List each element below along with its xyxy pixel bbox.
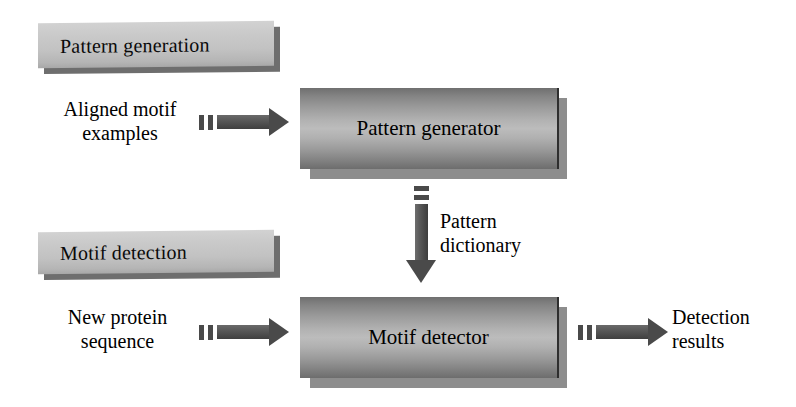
plaque-face: Motif detection: [38, 230, 274, 274]
process-box-face: Pattern generator: [300, 88, 559, 169]
arrow-tick-icon: [199, 115, 204, 130]
section-label-pattern-generation: Pattern generation: [38, 34, 210, 56]
plaque-face: Pattern generation: [38, 21, 274, 68]
arrow-tick-icon: [208, 325, 213, 340]
arrow-shaft: [217, 325, 269, 339]
section-label-motif-detection: Motif detection: [38, 242, 187, 263]
arrow-tick-icon: [587, 325, 592, 340]
arrow-head-icon: [648, 318, 668, 346]
caption-detection-results: Detection results: [672, 305, 796, 354]
arrow-head-icon: [269, 318, 289, 346]
arrow-motif-detector-to-results: [578, 318, 668, 346]
arrow-body: [217, 318, 289, 346]
arrow-tick-icon: [578, 325, 583, 340]
process-label-motif-detector: Motif detector: [368, 327, 489, 348]
arrow-shaft: [217, 115, 269, 129]
arrow-input-to-pattern-generator: [199, 108, 289, 136]
arrow-tick-icon: [199, 325, 204, 340]
caption-new-protein-sequence: New protein sequence: [40, 305, 195, 354]
caption-pattern-dictionary: Pattern dictionary: [440, 209, 610, 258]
arrow-body: [217, 108, 289, 136]
caption-aligned-motif-examples: Aligned motif examples: [45, 97, 195, 146]
arrow-tick-icon: [208, 115, 213, 130]
section-plaque-motif-detection: Motif detection: [38, 230, 274, 274]
process-box-motif-detector: Motif detector: [300, 297, 557, 378]
arrow-pattern-generator-to-motif-detector: [406, 186, 436, 283]
process-box-face: Motif detector: [300, 297, 559, 378]
arrow-body: [596, 318, 668, 346]
diagram-canvas: Pattern generation Aligned motif example…: [0, 0, 796, 407]
arrow-head-icon: [269, 108, 289, 136]
arrow-head-icon: [406, 260, 436, 283]
arrow-input-to-motif-detector: [199, 318, 289, 346]
process-label-pattern-generator: Pattern generator: [356, 118, 500, 139]
section-plaque-pattern-generation: Pattern generation: [38, 21, 274, 68]
arrow-tick-icon: [414, 186, 429, 191]
arrow-tick-icon: [414, 195, 429, 200]
arrow-shaft: [415, 204, 428, 260]
process-box-pattern-generator: Pattern generator: [300, 88, 557, 169]
arrow-shaft: [596, 325, 648, 339]
